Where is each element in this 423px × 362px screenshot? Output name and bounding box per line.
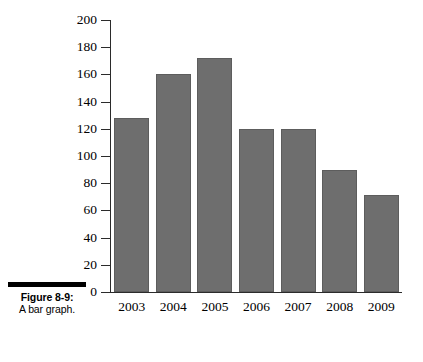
x-axis-tick-label: 2009: [368, 300, 395, 314]
y-axis-tick: [101, 74, 110, 75]
y-axis-tick-label: 80: [84, 176, 98, 190]
bar-series: [111, 20, 402, 292]
x-axis-tick-label: 2003: [118, 300, 145, 314]
x-axis-tick-label: 2005: [201, 300, 228, 314]
y-axis-tick: [101, 20, 110, 21]
y-axis-tick-label: 60: [84, 204, 98, 218]
caption-rule: [8, 282, 86, 287]
y-axis-tick-label: 100: [77, 149, 97, 163]
bar: [156, 74, 191, 292]
y-axis-tick-label: 20: [84, 258, 98, 272]
y-axis-tick-label: 200: [77, 13, 97, 27]
y-axis-tick-label: 120: [77, 122, 97, 136]
x-axis-tick-label: 2006: [243, 300, 270, 314]
bar: [197, 58, 232, 292]
x-axis-tick-label: 2004: [160, 300, 187, 314]
bar: [239, 129, 274, 292]
x-axis-tick-label: 2007: [285, 300, 312, 314]
bar: [281, 129, 316, 292]
y-axis-tick: [101, 238, 110, 239]
y-axis-tick: [101, 210, 110, 211]
y-axis-tick-label: 180: [77, 40, 97, 54]
y-axis-tick: [101, 183, 110, 184]
y-axis-tick-label: 40: [84, 231, 98, 245]
figure-container: Figure 8-9: A bar graph. 020406080100120…: [0, 0, 423, 362]
y-axis-tick-label: 0: [90, 285, 97, 299]
x-axis-line: [101, 292, 402, 293]
figure-caption: Figure 8-9: A bar graph.: [8, 282, 86, 315]
y-axis-tick: [101, 129, 110, 130]
bar: [322, 170, 357, 292]
y-axis-tick-label: 140: [77, 95, 97, 109]
caption-subtitle: A bar graph.: [8, 303, 86, 315]
bar: [114, 118, 149, 292]
y-axis-tick: [101, 265, 110, 266]
y-axis-tick: [101, 156, 110, 157]
x-axis-tick-label: 2008: [326, 300, 353, 314]
y-axis-tick: [101, 102, 110, 103]
bar: [364, 195, 399, 292]
bar-chart-plot-area: 020406080100120140160180200 200320042005…: [110, 20, 402, 292]
y-axis-tick-label: 160: [77, 68, 97, 82]
y-axis-tick: [101, 292, 110, 293]
caption-title: Figure 8-9:: [8, 291, 86, 303]
y-axis-tick: [101, 47, 110, 48]
